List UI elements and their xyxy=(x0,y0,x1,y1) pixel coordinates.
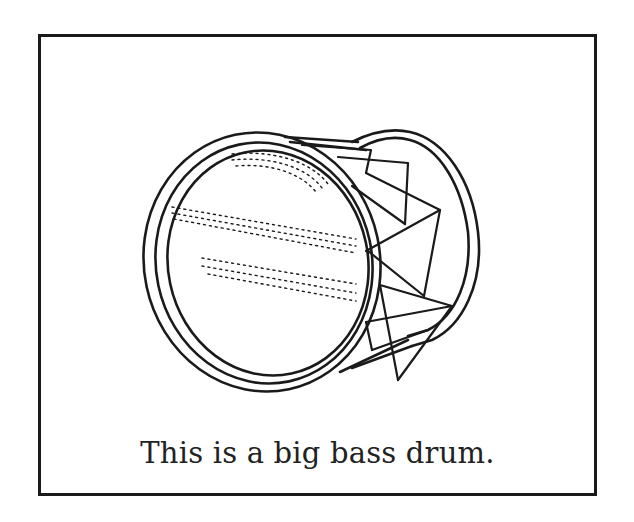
caption: This is a big bass drum. xyxy=(38,436,597,470)
tension-cords xyxy=(302,145,452,380)
front-rim xyxy=(120,110,405,413)
